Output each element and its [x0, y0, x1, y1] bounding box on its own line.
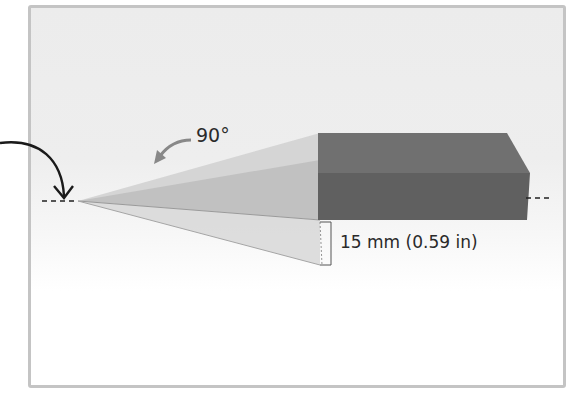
- diagram-canvas: [0, 0, 579, 412]
- dimension-label: 15 mm (0.59 in): [340, 232, 478, 252]
- dimension-guide: [320, 222, 322, 265]
- block-front-face: [318, 173, 530, 220]
- rotation-arrow-icon: [160, 140, 191, 156]
- angle-label: 90°: [196, 124, 230, 146]
- block-top-face: [318, 133, 530, 173]
